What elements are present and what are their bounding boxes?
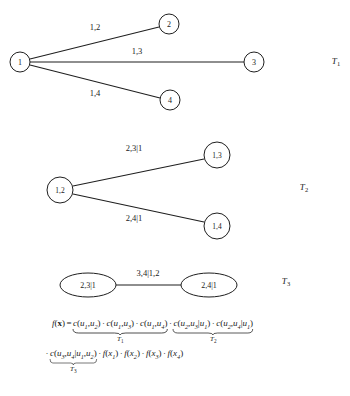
edge-label-1-2: 1,2 bbox=[90, 22, 101, 32]
tree-1-tag: T1 bbox=[332, 56, 340, 67]
edge-label-1-3: 1,3 bbox=[132, 46, 143, 56]
group-t3-text: c(u3,u4|u1,u2) bbox=[50, 348, 97, 360]
node-12-label: 1,2 bbox=[55, 186, 65, 195]
edge-label-231-241: 3,4|1,2 bbox=[137, 268, 160, 278]
node-3-label: 3 bbox=[252, 58, 256, 67]
tree-1-tag-sub: 1 bbox=[337, 60, 340, 67]
tree-2-tag-sub: 2 bbox=[305, 186, 308, 193]
tree-2: 2,3|1 2,4|1 1,2 1,3 1,4 T2 bbox=[47, 142, 308, 239]
tree-3: 3,4|1,2 2,3|1 2,4|1 T3 bbox=[60, 268, 290, 297]
tree-3-tag-sub: 3 bbox=[287, 280, 290, 287]
node-2-label: 2 bbox=[167, 20, 171, 29]
edge-12-13 bbox=[73, 159, 204, 186]
group-t2-text: c(u2,u3|u1)·c(u2,u4|u1) bbox=[173, 318, 253, 330]
group-t3: c(u3,u4|u1,u2) T3 bbox=[50, 348, 97, 371]
tree-2-tag: T2 bbox=[300, 182, 308, 193]
formula-line-1: f(x) = c(u1,u2)·c(u1,u3)·c(u1,u4) T1 · bbox=[52, 318, 253, 341]
group-t1-tag-sub: 1 bbox=[121, 338, 124, 344]
edge-label-12-13: 2,3|1 bbox=[126, 143, 143, 153]
vine-copula-figure: 1,2 1,3 1,4 1 2 3 4 T1 2,3|1 2,4|1 1,2 bbox=[0, 0, 350, 396]
tree-1: 1,2 1,3 1,4 1 2 3 4 T1 bbox=[10, 14, 340, 110]
edge-label-1-4: 1,4 bbox=[90, 88, 101, 98]
node-13-label: 1,3 bbox=[212, 151, 222, 160]
node-14-label: 1,4 bbox=[212, 222, 222, 231]
group-t1: c(u1,u2)·c(u1,u3)·c(u1,u4) T1 bbox=[73, 318, 167, 341]
group-t1-text: c(u1,u2)·c(u1,u3)·c(u1,u4) bbox=[73, 318, 167, 330]
group-t1-tag: T1 bbox=[73, 335, 167, 344]
edge-label-12-14: 2,4|1 bbox=[126, 213, 143, 223]
group-t2-tag-sub: 2 bbox=[214, 338, 217, 344]
density-factorization-formula: f(x) = c(u1,u2)·c(u1,u3)·c(u1,u4) T1 · bbox=[0, 316, 350, 396]
node-241-label: 2,4|1 bbox=[201, 281, 217, 290]
node-1-label: 1 bbox=[18, 58, 22, 67]
formula-line-2: · c(u3,u4|u1,u2) T3 ·f(x1)·f(x2)·f(x3)·f… bbox=[44, 348, 183, 371]
group-t2-tag: T2 bbox=[173, 335, 253, 344]
tree-3-tag: T3 bbox=[282, 276, 290, 287]
node-4-label: 4 bbox=[168, 96, 172, 105]
equals-sign: = bbox=[65, 318, 73, 328]
formula-lhs: f(x) bbox=[52, 318, 65, 328]
marginal-densities: ·f(x1)·f(x2)·f(x3)·f(x4) bbox=[97, 348, 183, 360]
node-231-label: 2,3|1 bbox=[80, 281, 96, 290]
group-t3-tag: T3 bbox=[50, 365, 97, 374]
group-t2: c(u2,u3|u1)·c(u2,u4|u1) T2 bbox=[173, 318, 253, 341]
group-t3-tag-sub: 3 bbox=[74, 368, 77, 374]
